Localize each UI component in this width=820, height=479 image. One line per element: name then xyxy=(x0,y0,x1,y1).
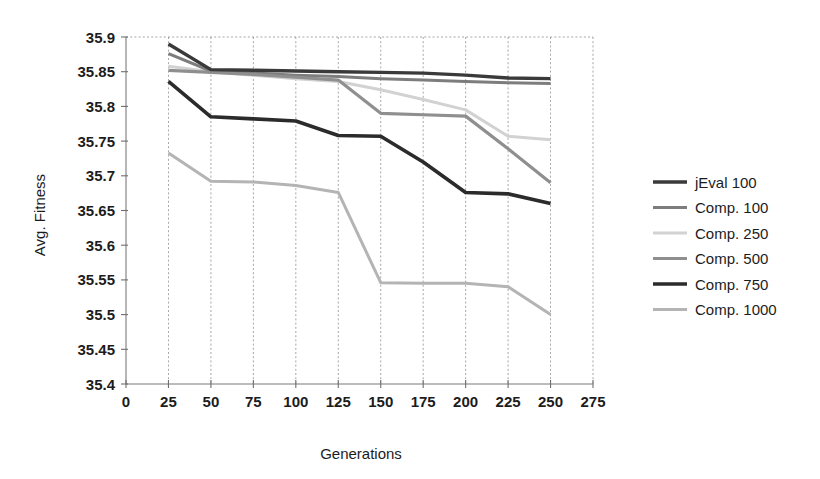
y-tick-label: 35.4 xyxy=(86,376,116,393)
x-tick-label: 150 xyxy=(368,393,393,410)
chart-container: 0255075100125150175200225250275 35.435.4… xyxy=(0,0,820,479)
series-line xyxy=(168,81,550,203)
y-tick-label: 35.6 xyxy=(86,237,115,254)
legend-label: Comp. 500 xyxy=(695,250,768,267)
y-tick-label: 35.9 xyxy=(86,29,115,46)
line-chart: 0255075100125150175200225250275 35.435.4… xyxy=(0,0,820,479)
x-tick-label: 75 xyxy=(245,393,262,410)
x-tick-label: 225 xyxy=(496,393,521,410)
x-tick-label: 0 xyxy=(122,393,130,410)
y-tick-label: 35.65 xyxy=(77,202,115,219)
legend-label: Comp. 1000 xyxy=(695,301,777,318)
y-tick-label: 35.7 xyxy=(86,167,115,184)
legend-label: jEval 100 xyxy=(694,174,757,191)
plot-axes xyxy=(126,37,593,384)
x-tick-label: 25 xyxy=(160,393,177,410)
chart-legend: jEval 100Comp. 100Comp. 250Comp. 500Comp… xyxy=(653,174,777,319)
x-tick-labels: 0255075100125150175200225250275 xyxy=(122,393,606,410)
y-tick-label: 35.55 xyxy=(77,271,115,288)
y-axis-title: Avg. Fitness xyxy=(31,174,48,256)
y-tick-label: 35.85 xyxy=(77,63,115,80)
y-tick-labels: 35.435.4535.535.5535.635.6535.735.7535.8… xyxy=(77,29,115,393)
x-tick-label: 100 xyxy=(283,393,308,410)
x-tick-label: 275 xyxy=(580,393,605,410)
y-tick-marks xyxy=(121,37,128,384)
data-series-group xyxy=(168,44,550,315)
y-tick-label: 35.45 xyxy=(77,341,115,358)
series-line xyxy=(168,153,550,315)
y-tick-label: 35.5 xyxy=(86,306,115,323)
x-tick-label: 50 xyxy=(203,393,220,410)
legend-label: Comp. 250 xyxy=(695,225,768,242)
x-tick-label: 175 xyxy=(411,393,436,410)
y-tick-label: 35.75 xyxy=(77,133,115,150)
x-tick-label: 125 xyxy=(326,393,351,410)
x-tick-label: 250 xyxy=(538,393,563,410)
x-axis-title: Generations xyxy=(320,445,402,462)
x-tick-label: 200 xyxy=(453,393,478,410)
legend-label: Comp. 100 xyxy=(695,199,768,216)
y-tick-label: 35.8 xyxy=(86,98,115,115)
legend-label: Comp. 750 xyxy=(695,276,768,293)
